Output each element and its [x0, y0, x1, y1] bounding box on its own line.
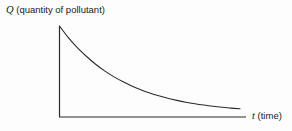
x-axis-description: (time) — [258, 110, 282, 121]
y-axis-label: Q (quantity of pollutant) — [6, 5, 105, 16]
decay-curve — [60, 26, 241, 109]
plot-area — [0, 0, 292, 131]
y-axis-description: (quantity of pollutant) — [16, 4, 105, 15]
y-axis-symbol: Q — [6, 4, 14, 15]
x-axis-label: t (time) — [252, 111, 282, 122]
pollutant-decay-figure: Q (quantity of pollutant) t (time) — [0, 0, 292, 131]
